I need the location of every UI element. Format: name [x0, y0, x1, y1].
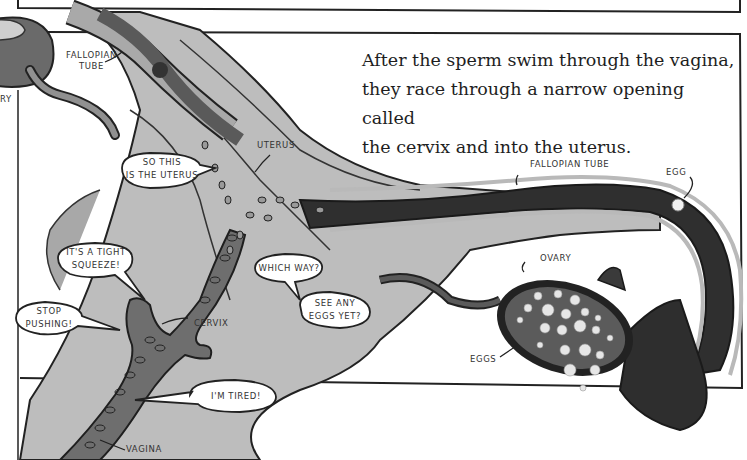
caption-line-2: they race through a narrow opening calle… — [362, 75, 742, 133]
bubble-line: So this — [124, 156, 200, 169]
label-fallopian-tube-left: Fallopian Tube — [66, 50, 117, 72]
label-ovary: Ovary — [540, 253, 571, 264]
label-fallopian-tube-left-line-2: Tube — [66, 61, 117, 72]
label-vagina: Vagina — [126, 444, 162, 455]
label-egg: Egg — [666, 167, 686, 178]
bubble-line: It's a tight — [60, 246, 132, 259]
bubble-line: See any — [302, 297, 368, 310]
bubble-line: Which way? — [256, 262, 322, 275]
caption: After the sperm swim through the vagina,… — [362, 46, 742, 162]
label-cervix: Cervix — [194, 318, 229, 329]
speech-bubble-im-tired: I'm tired! — [198, 390, 274, 403]
bubble-line: eggs yet? — [302, 310, 368, 323]
bubble-line: Stop — [18, 305, 80, 318]
speech-bubble-stop-pushing: Stop pushing! — [18, 305, 80, 331]
speech-bubble-tight-squeeze: It's a tight squeeze! — [60, 246, 132, 272]
bubble-line: pushing! — [18, 318, 80, 331]
label-fallopian-tube-right: Fallopian Tube — [530, 159, 609, 170]
label-eggs: Eggs — [470, 354, 496, 365]
caption-line-1: After the sperm swim through the vagina, — [362, 46, 742, 75]
caption-line-3: the cervix and into the uterus. — [362, 133, 742, 162]
ovary-right — [380, 264, 707, 430]
speech-bubble-see-any-eggs: See any eggs yet? — [302, 297, 368, 323]
bubble-line: squeeze! — [60, 259, 132, 272]
illustration-page: After the sperm swim through the vagina,… — [0, 0, 747, 460]
label-fallopian-tube-left-line-1: Fallopian — [66, 50, 117, 61]
bubble-line: is the uterus — [124, 169, 200, 182]
speech-bubble-which-way: Which way? — [256, 262, 322, 275]
label-ovary-left-partial: ry — [0, 94, 12, 105]
label-uterus: Uterus — [257, 140, 295, 151]
bubble-line: I'm tired! — [198, 390, 274, 403]
speech-bubble-so-this-is-the-uterus: So this is the uterus — [124, 156, 200, 182]
